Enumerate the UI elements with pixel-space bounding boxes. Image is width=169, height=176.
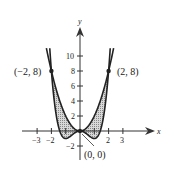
tick-label-y-4: 4 <box>71 97 75 106</box>
tick-label-y-m2: −2 <box>66 142 75 151</box>
x-axis-label: x <box>156 127 161 136</box>
point-right <box>106 69 110 73</box>
y-axis-label: y <box>77 17 82 26</box>
point-right-label: (2, 8) <box>117 66 139 78</box>
tick-label-x-m3: −3 <box>32 136 41 145</box>
tick-label-x-2: 2 <box>106 136 110 145</box>
tick-label-y-10: 10 <box>66 52 74 61</box>
point-left <box>49 69 53 73</box>
tick-label-y-6: 6 <box>71 82 75 91</box>
tick-label-x-m2: −2 <box>46 136 55 145</box>
tick-label-y-8: 8 <box>71 67 75 76</box>
point-left-label: (−2, 8) <box>14 66 41 78</box>
graph: x y (−2, 8) (2, 8) (0, 0) −3 −2 2 3 −2 2… <box>0 0 169 176</box>
tick-label-x-3: 3 <box>120 136 124 145</box>
tick-label-y-2: 2 <box>71 112 75 121</box>
point-origin <box>78 129 82 133</box>
point-origin-label: (0, 0) <box>84 149 106 161</box>
